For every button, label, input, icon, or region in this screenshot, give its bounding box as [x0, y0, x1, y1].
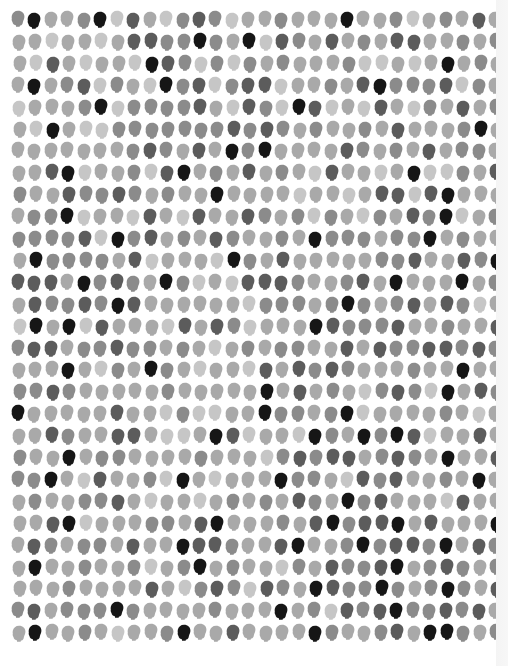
- head-silhouette-icon: [407, 494, 421, 511]
- head-silhouette-icon: [439, 340, 453, 357]
- head-silhouette-icon: [242, 623, 256, 640]
- head-silhouette-icon: [473, 493, 487, 510]
- head-silhouette-icon: [112, 252, 126, 269]
- head-silhouette-icon: [242, 229, 256, 246]
- head-silhouette-icon: [144, 426, 158, 443]
- head-silhouette-icon: [307, 10, 321, 27]
- head-silhouette-icon: [357, 625, 371, 642]
- head-silhouette-icon: [260, 318, 274, 335]
- head-silhouette-icon: [78, 164, 92, 181]
- head-silhouette-icon: [308, 625, 322, 642]
- head-silhouette-icon: [357, 362, 371, 379]
- head-silhouette-icon: [226, 33, 240, 50]
- head-silhouette-icon: [407, 34, 421, 51]
- head-silhouette-icon: [127, 427, 141, 444]
- head-silhouette-icon: [44, 602, 58, 619]
- head-silhouette-icon: [12, 494, 26, 511]
- head-silhouette-icon: [11, 601, 25, 618]
- head-silhouette-icon: [275, 33, 289, 50]
- head-silhouette-icon: [159, 536, 173, 553]
- head-silhouette-icon: [308, 231, 322, 248]
- head-silhouette-icon: [307, 141, 321, 158]
- head-silhouette-icon: [177, 33, 191, 50]
- head-silhouette-icon: [357, 100, 371, 117]
- head-silhouette-icon: [95, 187, 109, 204]
- head-silhouette-icon: [44, 208, 58, 225]
- head-silhouette-icon: [93, 405, 107, 422]
- head-silhouette-icon: [407, 297, 421, 314]
- head-silhouette-icon: [13, 252, 27, 269]
- head-silhouette-icon: [391, 122, 405, 139]
- head-silhouette-icon: [456, 625, 470, 642]
- head-silhouette-icon: [274, 472, 288, 489]
- head-silhouette-icon: [424, 382, 438, 399]
- head-silhouette-icon: [308, 428, 322, 445]
- head-silhouette-icon: [258, 141, 272, 158]
- head-silhouette-icon: [161, 449, 175, 466]
- head-silhouette-icon: [473, 624, 487, 641]
- head-silhouette-icon: [342, 122, 356, 139]
- head-silhouette-icon: [275, 230, 289, 247]
- head-silhouette-icon: [406, 76, 420, 93]
- head-silhouette-icon: [28, 164, 42, 181]
- head-silhouette-icon: [390, 163, 404, 180]
- head-silhouette-icon: [423, 230, 437, 247]
- head-silhouette-icon: [77, 143, 91, 160]
- head-silhouette-icon: [27, 78, 41, 95]
- head-silhouette-icon: [127, 559, 141, 576]
- head-silhouette-icon: [94, 32, 108, 49]
- head-silhouette-icon: [390, 623, 404, 640]
- head-silhouette-icon: [424, 514, 438, 531]
- head-silhouette-icon: [422, 78, 436, 95]
- head-silhouette-icon: [456, 34, 470, 51]
- head-silhouette-icon: [292, 623, 306, 640]
- head-silhouette-icon: [161, 121, 175, 138]
- head-silhouette-icon: [127, 296, 141, 313]
- head-silhouette-icon: [209, 165, 223, 182]
- head-silhouette-icon: [259, 494, 273, 511]
- head-silhouette-icon: [423, 296, 437, 313]
- head-silhouette-icon: [276, 54, 290, 71]
- head-silhouette-icon: [472, 472, 486, 489]
- head-silhouette-icon: [473, 99, 487, 116]
- head-silhouette-icon: [128, 448, 142, 465]
- head-silhouette-icon: [326, 514, 340, 531]
- head-silhouette-icon: [375, 448, 389, 465]
- head-silhouette-icon: [110, 76, 124, 93]
- head-silhouette-icon: [325, 164, 339, 181]
- head-silhouette-icon: [439, 208, 453, 225]
- head-silhouette-icon: [159, 207, 173, 224]
- head-silhouette-icon: [341, 426, 355, 443]
- head-silhouette-icon: [455, 339, 469, 356]
- head-silhouette-icon: [422, 12, 436, 29]
- head-silhouette-icon: [441, 319, 455, 336]
- head-silhouette-icon: [243, 187, 257, 204]
- head-silhouette-icon: [441, 56, 455, 73]
- head-silhouette-icon: [178, 54, 192, 71]
- head-silhouette-icon: [226, 559, 240, 576]
- head-silhouette-icon: [95, 122, 109, 139]
- head-silhouette-icon: [243, 450, 257, 467]
- head-silhouette-icon: [276, 251, 290, 268]
- head-silhouette-icon: [110, 601, 124, 618]
- head-silhouette-icon: [61, 34, 75, 51]
- head-silhouette-icon: [423, 493, 437, 510]
- head-silhouette-icon: [472, 341, 486, 358]
- head-silhouette-icon: [13, 318, 27, 335]
- head-silhouette-icon: [424, 579, 438, 596]
- head-silhouette-icon: [242, 98, 256, 115]
- head-silhouette-icon: [60, 76, 74, 93]
- head-silhouette-icon: [145, 122, 159, 139]
- head-silhouette-icon: [356, 76, 370, 93]
- head-silhouette-icon: [457, 186, 471, 203]
- head-silhouette-icon: [78, 296, 92, 313]
- head-silhouette-icon: [127, 230, 141, 247]
- head-silhouette-icon: [258, 536, 272, 553]
- head-silhouette-icon: [341, 32, 355, 49]
- head-grid-artwork: [0, 0, 508, 666]
- head-silhouette-icon: [176, 143, 190, 160]
- head-silhouette-icon: [422, 406, 436, 423]
- head-silhouette-icon: [390, 558, 404, 575]
- head-silhouette-icon: [112, 318, 126, 335]
- page-edge-strip: [496, 0, 508, 666]
